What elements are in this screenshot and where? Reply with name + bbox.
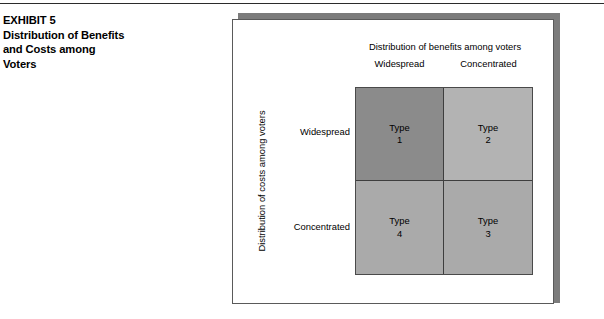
matrix-cell-type-3-number: 3 [485,228,490,241]
matrix-cell-type-4-word: Type [389,215,409,228]
exhibit-caption-line-1: EXHIBIT 5 [3,13,208,28]
row-axis-title-wrapper: Distribution of costs among voters [256,87,268,275]
matrix-cell-type-1-number: 1 [397,134,402,147]
column-axis-title: Distribution of benefits among voters [355,41,535,52]
matrix-cell-type-1: Type 1 [356,88,444,181]
matrix-cell-type-2: Type 2 [444,88,532,181]
matrix-cell-type-2-number: 2 [485,134,490,147]
row-label-widespread: Widespread [278,126,350,137]
column-label-concentrated: Concentrated [444,58,533,69]
exhibit-caption: EXHIBIT 5 Distribution of Benefits and C… [3,13,208,71]
matrix-cell-type-3: Type 3 [444,181,532,274]
matrix-cell-type-4: Type 4 [356,181,444,274]
top-divider-rule [0,3,604,4]
row-label-concentrated: Concentrated [272,221,350,232]
matrix-cell-type-3-word: Type [478,215,498,228]
matrix-cell-type-2-word: Type [478,122,498,135]
row-axis-title: Distribution of costs among voters [256,110,268,251]
benefits-costs-matrix: Type 1 Type 2 Type 4 Type 3 [355,87,533,275]
matrix-cell-type-4-number: 4 [397,228,402,241]
exhibit-caption-line-3: and Costs among [3,42,208,57]
exhibit-caption-line-4: Voters [3,57,208,72]
exhibit-caption-line-2: Distribution of Benefits [3,28,208,43]
column-label-widespread: Widespread [355,58,444,69]
matrix-cell-type-1-word: Type [389,122,409,135]
